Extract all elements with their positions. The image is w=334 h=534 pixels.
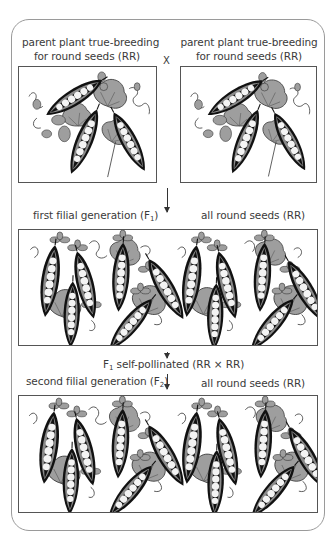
f2-result: all round seeds (RR) (201, 377, 305, 389)
f1-result: all round seeds (RR) (201, 209, 305, 221)
f2-label: second filial generation (F2) (26, 375, 168, 389)
self-pollination-suffix: self-pollinated (RR × RR) (113, 358, 244, 370)
parent-right-illustration (180, 66, 317, 183)
parent-right-label-line1: parent plant true-breeding (180, 35, 318, 49)
parent-right-label: parent plant true-breeding for round see… (180, 35, 318, 63)
arrow-down-icon (167, 188, 168, 212)
parent-right-label-line2: for round seeds (RR) (180, 49, 318, 63)
f2-label-suffix: ) (164, 375, 168, 387)
parent-left-illustration (18, 66, 157, 183)
pea-plant-illustration (19, 67, 156, 182)
pea-pods-row (19, 396, 317, 512)
pea-pods-row (19, 230, 317, 345)
f1-label-prefix: first filial generation (F (33, 209, 150, 221)
parent-left-label-line1: parent plant true-breeding (22, 35, 152, 49)
f2-illustration (18, 395, 318, 513)
f2-label-prefix: second filial generation (F (26, 375, 160, 387)
self-pollination-label: F1 self-pollinated (RR × RR) (103, 358, 244, 372)
f1-illustration (18, 229, 318, 346)
f1-label-suffix: ) (154, 209, 158, 221)
parent-left-label: parent plant true-breeding for round see… (22, 35, 152, 63)
pea-plant-illustration (181, 67, 316, 182)
cross-symbol: X (163, 55, 170, 66)
parent-left-label-line2: for round seeds (RR) (22, 49, 152, 63)
f1-label: first filial generation (F1) (33, 209, 158, 223)
